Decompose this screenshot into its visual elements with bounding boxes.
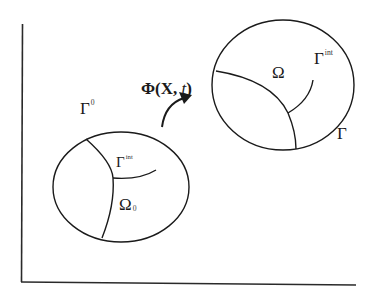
reference-domain-label: Ω0 [119,196,136,213]
current-internal-boundary [216,71,296,149]
reference-interface-curve [113,170,156,178]
reference-domain-outline [53,132,189,242]
current-interface-label: Γint [314,50,333,67]
mapping-label-main: Φ(X, [141,79,182,98]
subscript: 0 [133,204,137,213]
reference-domain [53,132,189,242]
gamma-glyph: Γ [337,124,347,143]
vertical-axis [22,24,23,282]
gamma-glyph: Γ [80,99,90,118]
superscript: int [325,48,333,57]
current-domain-outline [212,20,354,150]
current-domain-label: Ω [272,64,285,81]
current-domain [212,20,354,150]
mapping-label-close: ) [186,79,192,98]
omega-glyph: Ω [119,195,132,214]
reference-boundary-label: Γ0 [80,100,95,117]
superscript: 0 [91,98,95,107]
mapping-label: Φ(X, t) [141,80,192,97]
horizontal-axis [21,282,356,285]
omega-glyph: Ω [272,63,285,82]
current-interface-curve [288,80,313,113]
gamma-glyph: Γ [116,154,125,170]
superscript: int [126,153,133,160]
reference-internal-boundary [86,139,113,238]
diagram-canvas [0,0,376,297]
gamma-glyph: Γ [314,49,324,68]
reference-interface-label: Γint [116,155,133,170]
current-boundary-label: Γ [337,125,347,142]
